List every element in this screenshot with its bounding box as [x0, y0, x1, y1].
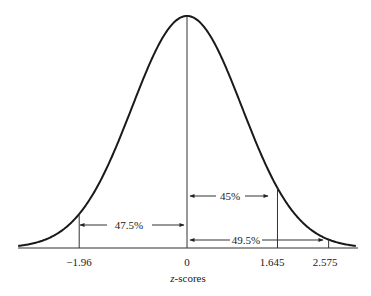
- annotation-47-5: 47.5%: [80, 219, 184, 231]
- tick-neg-1-96: −1.96: [66, 256, 92, 268]
- annotation-45: 45%: [190, 190, 268, 202]
- tick-0: 0: [184, 256, 190, 268]
- x-axis-label: z-scores: [169, 272, 205, 284]
- annotation-49-5: 49.5%: [190, 234, 323, 246]
- label-47-5: 47.5%: [115, 219, 143, 231]
- tick-2-575: 2.575: [313, 256, 338, 268]
- label-45: 45%: [220, 190, 240, 202]
- label-49-5: 49.5%: [232, 234, 260, 246]
- tick-1-645: 1.645: [260, 256, 285, 268]
- normal-distribution-diagram: 47.5% 45% 49.5% −1.96 0 1.645 2.575 z-sc…: [0, 0, 371, 296]
